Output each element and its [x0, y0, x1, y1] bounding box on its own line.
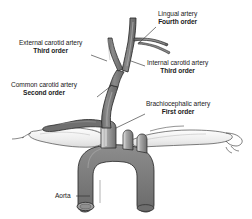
right-clavicle-bone	[132, 126, 242, 156]
artery-diagram-illustration	[0, 0, 252, 219]
aorta-vessel	[77, 145, 154, 212]
label-external-carotid-artery-name: External carotid artery	[19, 39, 82, 47]
label-lingual-artery-name: Lingual artery	[158, 10, 197, 18]
label-lingual-artery: Lingual artery Fourth order	[158, 10, 197, 26]
leader-internal-carotid	[131, 61, 145, 66]
anatomy-figure: Lingual artery Fourth order External car…	[0, 0, 252, 219]
label-external-carotid-artery-order: Third order	[19, 47, 82, 55]
label-external-carotid-artery: External carotid artery Third order	[19, 39, 82, 55]
label-common-carotid-artery-order: Second order	[11, 89, 77, 97]
label-aorta-name: Aorta	[55, 192, 71, 200]
lingual-artery-vessel	[134, 38, 170, 54]
left-common-carotid-branch-vessel	[123, 130, 133, 150]
carotid-bifurcation-vessel	[110, 70, 124, 87]
label-common-carotid-artery: Common carotid artery Second order	[11, 81, 77, 97]
left-subclavian-branch-vessel	[137, 134, 147, 153]
label-internal-carotid-artery-order: Third order	[147, 67, 208, 75]
label-brachiocephalic-artery: Brachiocephalic artery First order	[146, 100, 210, 116]
internal-carotid-artery-vessel	[122, 18, 136, 72]
external-carotid-artery-vessel	[108, 38, 123, 71]
label-common-carotid-artery-name: Common carotid artery	[11, 81, 77, 89]
leader-external-carotid	[91, 55, 107, 61]
label-brachiocephalic-artery-order: First order	[146, 108, 210, 116]
label-internal-carotid-artery-name: Internal carotid artery	[147, 59, 208, 67]
leader-brachiocephalic	[116, 114, 145, 128]
label-aorta: Aorta	[55, 192, 71, 200]
label-brachiocephalic-artery-name: Brachiocephalic artery	[146, 100, 210, 108]
label-lingual-artery-order: Fourth order	[158, 18, 197, 26]
label-internal-carotid-artery: Internal carotid artery Third order	[147, 59, 208, 75]
